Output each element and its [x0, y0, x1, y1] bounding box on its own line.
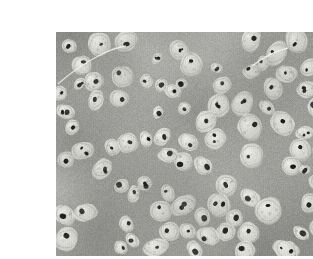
micrograph-image — [56, 32, 313, 256]
page-root: Light micrograph of hyaline cartilage sh… — [0, 0, 313, 259]
hyaline-cartilage-micrograph: Light micrograph of hyaline cartilage sh… — [56, 32, 313, 256]
